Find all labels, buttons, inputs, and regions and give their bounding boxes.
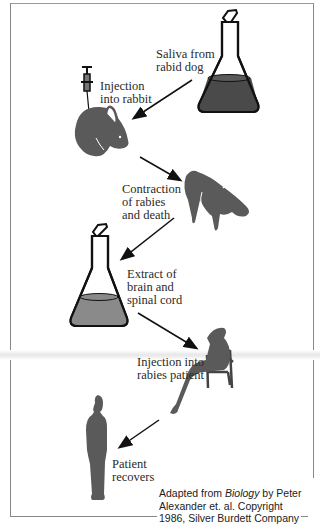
label-saliva: Saliva from rabid dog — [156, 48, 215, 74]
label-injection-rabbit: Injection into rabbit — [100, 80, 152, 106]
label-recovers: Patient recovers — [112, 458, 154, 484]
label-injection-patient: Injection into rabies patient — [137, 356, 204, 382]
label-contraction: Contraction of rabies and death — [122, 183, 181, 222]
credit-book-title: Biology — [225, 487, 259, 499]
frame-cutout — [308, 478, 320, 532]
flask-extract-icon — [71, 224, 128, 326]
dead-rabbit-icon — [184, 171, 249, 231]
credit-prefix: Adapted from — [159, 487, 225, 499]
label-extract: Extract of brain and spinal cord — [127, 268, 182, 307]
diagram-graphics — [0, 0, 320, 532]
credit-line2: Alexander et. al. Copyright — [159, 500, 301, 513]
syringe-icon — [81, 67, 93, 112]
standing-patient-icon — [86, 395, 107, 500]
credit-text: Adapted from Biology by Peter Alexander … — [157, 485, 301, 527]
rabbit-icon — [75, 107, 129, 156]
credit-line3: 1986, Silver Burdett Company — [159, 512, 301, 525]
credit-suffix: by Peter — [259, 487, 301, 499]
